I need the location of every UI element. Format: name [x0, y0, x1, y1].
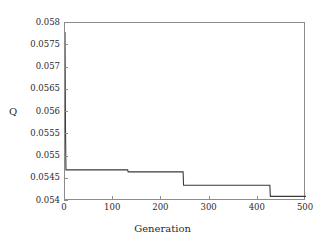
data-series-line	[65, 32, 306, 196]
y-axis-tick-label: 0.056	[36, 107, 60, 116]
x-axis-tick-label: 300	[200, 203, 216, 212]
y-axis-tick-mark	[64, 156, 68, 157]
y-axis-tick-label: 0.0545	[30, 173, 60, 182]
y-axis-tick-mark	[64, 133, 68, 134]
x-axis-tick-label: 100	[104, 203, 120, 212]
y-axis-tick-mark	[64, 89, 68, 90]
y-axis-tick-label: 0.0575	[30, 40, 60, 49]
plot-area	[64, 22, 305, 200]
y-axis-tick-label: 0.0565	[30, 84, 60, 93]
y-axis-title: Q	[9, 107, 17, 117]
y-axis-tick-label: 0.0555	[30, 129, 60, 138]
y-axis-tick-label: 0.058	[36, 18, 60, 27]
x-axis-tick-mark	[160, 196, 161, 200]
y-axis-tick-mark	[64, 178, 68, 179]
y-axis-tick-mark	[64, 200, 68, 201]
y-axis-tick-mark	[64, 67, 68, 68]
x-axis-tick-label: 0	[61, 203, 66, 212]
y-axis-tick-labels: 0.0540.05450.0550.05550.0560.05650.0570.…	[0, 0, 60, 248]
y-axis-tick-mark	[64, 44, 68, 45]
x-axis-tick-label: 400	[249, 203, 265, 212]
x-axis-tick-mark	[209, 196, 210, 200]
x-axis-tick-mark	[257, 196, 258, 200]
y-axis-tick-mark	[64, 111, 68, 112]
y-axis-tick-label: 0.055	[36, 151, 60, 160]
chart-figure: 0.0540.05450.0550.05550.0560.05650.0570.…	[0, 0, 325, 248]
x-axis-tick-label: 200	[152, 203, 168, 212]
x-axis-tick-label: 500	[297, 203, 313, 212]
x-axis-tick-mark	[112, 196, 113, 200]
y-axis-tick-label: 0.057	[36, 62, 60, 71]
y-axis-tick-label: 0.054	[36, 196, 60, 205]
y-axis-tick-mark	[64, 22, 68, 23]
data-line-svg	[65, 23, 306, 201]
x-axis-title: Generation	[0, 224, 325, 234]
